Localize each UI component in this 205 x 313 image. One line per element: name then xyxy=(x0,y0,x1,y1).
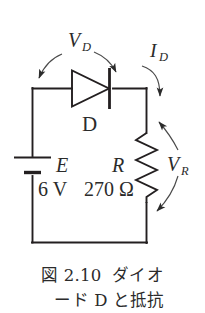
vd-right-arrow xyxy=(94,52,116,72)
resistor-zigzag xyxy=(136,133,157,203)
resistor-symbol xyxy=(136,133,157,203)
vr-upper-arrow xyxy=(159,122,178,150)
label-resistor-name: R xyxy=(111,154,124,176)
label-diode-current-sub: D xyxy=(158,50,168,64)
diode-symbol xyxy=(72,68,110,109)
label-diode-voltage-main: V xyxy=(68,29,83,51)
label-diode-current: I D xyxy=(149,40,168,64)
label-diode-current-main: I xyxy=(149,40,158,61)
vr-lower-arrow xyxy=(157,176,178,211)
label-diode-voltage: V D xyxy=(68,29,91,54)
label-source-name: E xyxy=(55,154,68,176)
label-diode-name: D xyxy=(82,112,97,136)
figure-caption-line-2: ード D と抵抗 xyxy=(0,287,205,311)
label-resistor-voltage: V R xyxy=(167,153,189,178)
label-diode-voltage-sub: D xyxy=(81,40,91,54)
label-source-value: 6 V xyxy=(38,178,68,200)
vd-left-arrow xyxy=(39,54,62,78)
figure-container: V D I D D E 6 V R 270 Ω V R xyxy=(0,0,205,313)
label-resistor-value: 270 Ω xyxy=(84,178,134,200)
figure-caption-line-1: 図 2.10 ダイオ xyxy=(0,262,205,286)
id-arrow xyxy=(142,66,160,96)
label-resistor-voltage-sub: R xyxy=(180,164,189,178)
diode-triangle xyxy=(72,71,109,107)
label-resistor-voltage-main: V xyxy=(167,153,182,175)
battery-symbol xyxy=(14,158,51,173)
